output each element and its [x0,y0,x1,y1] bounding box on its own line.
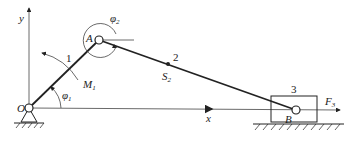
moment-m1-label: M1 [82,78,96,92]
com-s2-label: S2 [162,70,172,84]
joint-o [25,104,33,112]
link-2-number: 2 [173,51,179,63]
phi1-label: φ1 [62,89,72,103]
mechanism-diagram: y x φ2 φ1 M1 1 2 S2 3 [0,0,354,144]
joint-b-label: B [285,113,292,125]
x-axis-label: x [205,112,211,124]
origin-label: O [17,102,25,114]
joint-b [292,106,300,114]
link-3-number: 3 [291,83,297,95]
slider-ground-icon [253,124,344,130]
phi1-angle-icon [50,86,61,108]
joint-a-label: A [85,32,93,44]
com-s2-dot [166,62,170,66]
joint-a [95,36,103,44]
y-axis-label: y [18,12,24,24]
phi2-label: φ2 [110,12,120,26]
link-1-number: 1 [66,52,72,64]
force-f3-label: F3 [324,95,336,109]
diagram-svg: y x φ2 φ1 M1 1 2 S2 3 [0,0,354,144]
link-2 [99,40,296,110]
